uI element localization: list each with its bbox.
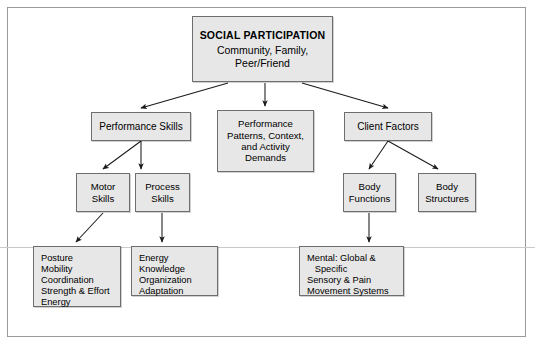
process-detail-item-2: Knowledge bbox=[139, 264, 210, 275]
node-social-participation[interactable]: SOCIAL PARTICIPATION Community, Family, … bbox=[192, 16, 333, 82]
social-participation-line-2: Peer/Friend bbox=[235, 57, 290, 69]
motor-skills-line-2: Skills bbox=[92, 193, 114, 204]
process-detail-item-3: Organization bbox=[139, 275, 210, 286]
performance-patterns-line-4: Demands bbox=[245, 152, 286, 163]
performance-patterns-line-1: Performance bbox=[238, 118, 293, 129]
motor-detail-item-1: Posture bbox=[41, 253, 113, 264]
motor-detail-item-4: Strength & Effort bbox=[41, 286, 113, 297]
bodyfn-detail-item-3: Sensory & Pain bbox=[307, 275, 396, 286]
process-detail-item-4: Adaptation bbox=[139, 286, 210, 297]
node-performance-skills[interactable]: Performance Skills bbox=[91, 112, 191, 141]
social-participation-line-1: Community, Family, bbox=[217, 44, 308, 56]
motor-detail-item-3: Coordination bbox=[41, 275, 113, 286]
node-process-skills-detail[interactable]: Energy Knowledge Organization Adaptation bbox=[131, 246, 218, 296]
bodyfn-detail-item-2: Specific bbox=[307, 264, 396, 275]
body-structures-line-1: Body bbox=[436, 181, 458, 192]
body-structures-line-2: Structures bbox=[425, 193, 469, 204]
node-body-structures[interactable]: Body Structures bbox=[418, 173, 476, 212]
performance-patterns-line-2: Patterns, Context, bbox=[227, 130, 304, 141]
client-factors-label: Client Factors bbox=[357, 121, 419, 133]
process-detail-item-1: Energy bbox=[139, 253, 210, 264]
motor-detail-item-2: Mobility bbox=[41, 264, 113, 275]
process-skills-line-2: Skills bbox=[151, 193, 173, 204]
body-functions-line-2: Functions bbox=[349, 193, 391, 204]
performance-skills-label: Performance Skills bbox=[99, 121, 182, 133]
motor-skills-line-1: Motor bbox=[91, 181, 116, 192]
bodyfn-detail-item-4: Movement Systems bbox=[307, 286, 396, 297]
diagram-canvas: SOCIAL PARTICIPATION Community, Family, … bbox=[0, 0, 535, 346]
node-client-factors[interactable]: Client Factors bbox=[344, 112, 432, 141]
body-functions-line-1: Body bbox=[359, 181, 381, 192]
bodyfn-detail-item-1: Mental: Global & bbox=[307, 253, 396, 264]
node-motor-skills-detail[interactable]: Posture Mobility Coordination Strength &… bbox=[33, 246, 121, 307]
node-process-skills[interactable]: Process Skills bbox=[135, 173, 190, 212]
node-body-functions[interactable]: Body Functions bbox=[343, 173, 396, 212]
social-participation-heading: SOCIAL PARTICIPATION bbox=[200, 29, 326, 41]
node-motor-skills[interactable]: Motor Skills bbox=[76, 173, 130, 212]
node-performance-patterns[interactable]: Performance Patterns, Context, and Activ… bbox=[217, 110, 314, 172]
process-skills-line-1: Process bbox=[145, 181, 180, 192]
node-body-functions-detail[interactable]: Mental: Global & Specific Sensory & Pain… bbox=[299, 246, 404, 296]
motor-detail-item-5: Energy bbox=[41, 297, 113, 308]
performance-patterns-line-3: and Activity bbox=[241, 141, 290, 152]
